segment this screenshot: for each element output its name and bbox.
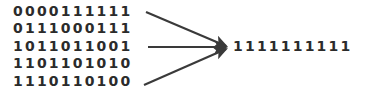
input-bitstring-row: 1101101010 [13, 55, 153, 72]
input-bitstring-row: 0111000111 [13, 20, 153, 37]
arrow-bottom-icon [144, 49, 226, 85]
input-bitstring-row: 1011011001 [13, 38, 153, 55]
input-bitstring-list: 0000111111 0111000111 1011011001 1101101… [13, 3, 153, 90]
input-bitstring-row: 0000111111 [13, 3, 153, 20]
diagram-canvas: 0000111111 0111000111 1011011001 1101101… [0, 0, 376, 100]
output-bitstring: 1111111111 [233, 38, 352, 55]
arrow-top-icon [146, 12, 226, 46]
input-bitstring-row: 1110110100 [13, 73, 153, 90]
